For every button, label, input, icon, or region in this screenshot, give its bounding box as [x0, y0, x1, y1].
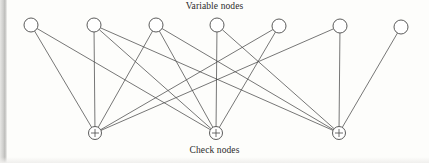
graph-edge: [98, 31, 152, 127]
graph-edge: [342, 33, 397, 127]
check-node: [333, 127, 346, 140]
variable-node: [24, 18, 38, 32]
check-nodes-label: Check nodes: [0, 145, 429, 155]
graph-edge: [99, 30, 211, 129]
variable-nodes-label: Variable nodes: [0, 1, 429, 11]
graph-canvas: [0, 0, 429, 163]
variable-node: [210, 18, 224, 32]
variable-node: [149, 18, 163, 32]
variable-node: [272, 19, 286, 33]
variable-node: [333, 19, 347, 33]
variable-node: [394, 20, 408, 34]
graph-edge: [35, 31, 92, 127]
tanner-graph-figure: Variable nodes Check nodes: [0, 0, 429, 163]
check-node: [210, 127, 223, 140]
graph-edge: [94, 32, 95, 127]
graph-edge: [219, 32, 275, 127]
graph-edge: [216, 32, 217, 127]
graph-edge: [222, 30, 334, 129]
check-node: [89, 127, 102, 140]
edges-group: [35, 28, 398, 131]
variable-node: [87, 18, 101, 32]
check-nodes-group: [89, 127, 346, 140]
graph-edge: [159, 31, 212, 127]
graph-edge: [339, 33, 340, 127]
variable-nodes-group: [24, 18, 408, 34]
